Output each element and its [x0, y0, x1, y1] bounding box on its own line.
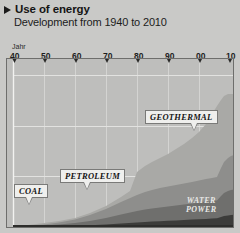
infographic-root: Use of energy Development from 1940 to 2… — [0, 0, 240, 233]
callout-petroleum-label: PETROLEUM — [60, 169, 125, 183]
header: Use of energy Development from 1940 to 2… — [0, 0, 240, 44]
water-power-line-1: WATER — [186, 196, 216, 205]
page-subtitle: Development from 1940 to 2010 — [14, 16, 167, 29]
callout-geothermal-label: GEOTHERMAL — [145, 110, 218, 124]
callout-coal-label: COAL — [14, 184, 48, 198]
inline-label-water-power: WATER POWER — [186, 196, 216, 214]
water-power-line-2: POWER — [186, 205, 216, 214]
page-title: Use of energy — [15, 3, 90, 16]
title-row: Use of energy — [4, 3, 90, 16]
chart-container: Jahr 40 50 60 70 80 90 00 10 150 PJ 100 … — [0, 44, 240, 233]
triangle-right-icon — [4, 6, 11, 14]
